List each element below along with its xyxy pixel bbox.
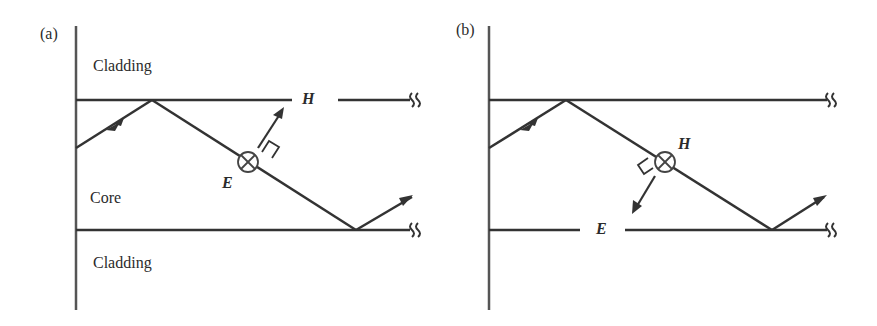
h-field-arrow bbox=[258, 114, 280, 148]
e-field-arrow bbox=[637, 176, 655, 206]
e-field-label: E bbox=[596, 221, 607, 237]
break-mark-icon bbox=[826, 93, 836, 237]
h-arrow-head-icon bbox=[273, 107, 284, 119]
top-cladding-label: Cladding bbox=[93, 58, 152, 74]
ray-out-arrow-icon bbox=[813, 195, 827, 206]
e-field-label: E bbox=[222, 175, 233, 191]
h-field-label: H bbox=[302, 91, 314, 107]
core-label: Core bbox=[90, 190, 121, 206]
panel-label-b: (b) bbox=[456, 22, 475, 38]
panel-a: (a) Cladding Core Cladding H E bbox=[0, 0, 437, 326]
into-page-icon bbox=[655, 152, 675, 172]
right-angle-icon bbox=[638, 158, 653, 174]
waveguide-diagram-a bbox=[0, 0, 437, 326]
break-mark-icon bbox=[410, 93, 420, 237]
bottom-cladding-label: Cladding bbox=[93, 255, 152, 271]
into-page-icon bbox=[238, 152, 258, 172]
waveguide-diagram-b bbox=[437, 0, 877, 326]
panel-label-a: (a) bbox=[40, 26, 58, 42]
h-field-label: H bbox=[678, 136, 690, 152]
right-angle-icon bbox=[262, 141, 279, 158]
panel-b: (b) H E bbox=[437, 0, 877, 326]
